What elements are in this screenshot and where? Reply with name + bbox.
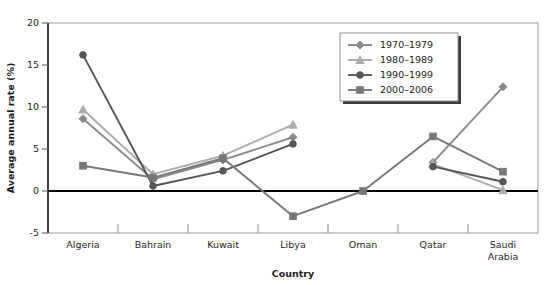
data-point	[220, 155, 227, 162]
legend-marker	[357, 87, 364, 94]
x-category-label: Arabia	[488, 251, 519, 262]
series-line	[83, 55, 293, 186]
data-point	[430, 133, 437, 140]
data-point	[500, 168, 507, 175]
x-category-label: Qatar	[420, 239, 447, 250]
data-point	[80, 52, 87, 59]
series-line	[83, 136, 503, 216]
x-axis-title: Country	[272, 268, 315, 279]
data-point	[150, 174, 157, 181]
y-axis-title: Average annual rate (%)	[5, 63, 16, 194]
series-line	[433, 167, 503, 182]
x-category-label: Algeria	[66, 239, 99, 250]
y-tick-label: 10	[27, 101, 39, 112]
series-line	[83, 110, 293, 175]
data-point	[80, 163, 87, 170]
data-point	[290, 141, 297, 148]
x-category-label: Bahrain	[135, 239, 172, 250]
x-category-label: Saudi	[490, 239, 517, 250]
data-point	[150, 183, 157, 190]
data-point	[430, 163, 437, 170]
legend-marker	[357, 72, 364, 79]
legend-label: 2000–2006	[380, 84, 433, 95]
x-category-label: Libya	[280, 239, 305, 250]
legend-label: 1980–1989	[380, 54, 433, 65]
series-1980-1989	[79, 105, 507, 193]
y-tick-label: 5	[33, 143, 39, 154]
legend-label: 1990–1999	[380, 69, 433, 80]
y-tick-label: 0	[33, 185, 39, 196]
data-point	[290, 213, 297, 220]
y-tick-label: 20	[27, 17, 39, 28]
y-tick-label: -5	[30, 227, 39, 238]
y-tick-label: 15	[27, 59, 39, 70]
data-point	[79, 105, 87, 113]
data-point	[289, 133, 297, 141]
average-annual-rate-line-chart: -505101520AlgeriaBahrainKuwaitLibyaOmanQ…	[0, 0, 556, 285]
x-category-label: Kuwait	[207, 239, 239, 250]
chart-figure: -505101520AlgeriaBahrainKuwaitLibyaOmanQ…	[0, 0, 556, 285]
data-point	[500, 178, 507, 185]
data-point	[360, 188, 367, 195]
legend-label: 1970–1979	[380, 39, 433, 50]
x-category-label: Oman	[349, 239, 378, 250]
data-point	[289, 121, 297, 129]
data-point	[220, 168, 227, 175]
